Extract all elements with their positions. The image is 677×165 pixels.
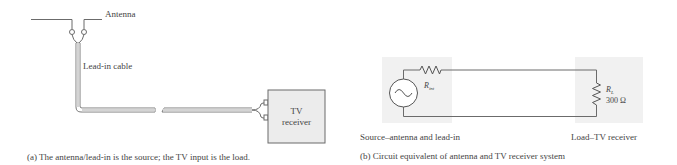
ac-source-icon — [390, 79, 418, 107]
lead-in-cable — [76, 43, 252, 112]
source-label: Source–antenna and lead-in — [360, 132, 460, 142]
caption-a: (a) The antenna/lead-in is the source; t… — [27, 152, 250, 162]
lead-in-cable-label: Lead-in cable — [83, 61, 132, 71]
tv-label: TV — [291, 106, 303, 116]
load-label: Load–TV receiver — [571, 132, 637, 142]
panel-b: Rint RL 300 Ω Source–antenna and lead-in… — [360, 57, 643, 161]
antenna-label: Antenna — [105, 9, 136, 19]
panel-a: Antenna Lead-in cable TV receiver (a) Th… — [27, 9, 325, 162]
r-load-value: 300 Ω — [606, 96, 626, 105]
receiver-label: receiver — [282, 117, 311, 127]
diagram-canvas: Antenna Lead-in cable TV receiver (a) Th… — [0, 0, 677, 165]
connector-icon — [252, 100, 268, 120]
caption-b: (b) Circuit equivalent of antenna and TV… — [360, 151, 565, 161]
antenna-icon — [31, 20, 102, 44]
tv-receiver-box: TV receiver — [268, 90, 325, 143]
